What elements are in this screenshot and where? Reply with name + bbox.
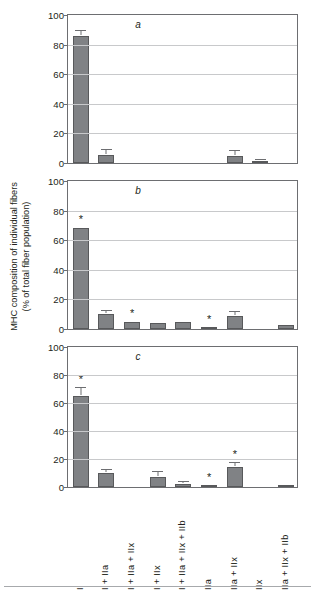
- x-axis-label-slot: IIa + IIx + IIb: [272, 490, 298, 590]
- bar: [73, 36, 89, 163]
- significance-marker: *: [207, 316, 211, 322]
- y-axis-tick-label: 60: [30, 235, 64, 246]
- y-axis-tick-mark: [64, 329, 68, 330]
- y-axis-tick-mark: [64, 270, 68, 271]
- bar: [98, 314, 114, 329]
- error-bar-cap: [75, 30, 86, 31]
- error-bar-cap: [152, 471, 163, 472]
- bar-slot: [222, 15, 248, 163]
- error-bar-cap: [101, 310, 112, 311]
- bar-slot: [171, 181, 197, 329]
- chart-panel-c: c *** 020406080100: [67, 346, 298, 488]
- error-bar-cap: [255, 159, 266, 160]
- error-bar-cap: [229, 150, 240, 151]
- bar-slot: [145, 347, 171, 487]
- gridline: [68, 270, 297, 271]
- y-axis-tick-mark: [64, 211, 68, 212]
- y-axis-tick-mark: [64, 403, 68, 404]
- y-axis-tick-label: 0: [30, 158, 64, 169]
- y-axis-tick-label: 80: [30, 39, 64, 50]
- bar-slot: *: [222, 347, 248, 487]
- y-axis-tick-label: 40: [30, 264, 64, 275]
- y-axis-tick-label: 60: [30, 69, 64, 80]
- y-axis-tick-mark: [64, 74, 68, 75]
- bar: [278, 485, 294, 487]
- bar: [227, 156, 243, 163]
- plot-area-c: c *** 020406080100: [67, 346, 298, 488]
- y-axis-tick-label: 0: [30, 324, 64, 335]
- bar: *: [73, 396, 89, 487]
- bar-slot: [248, 15, 274, 163]
- y-axis-tick-label: 100: [30, 342, 64, 353]
- gridline: [68, 240, 297, 241]
- bar-group-a: [68, 15, 297, 163]
- x-axis-label-slot: IIa: [195, 490, 221, 590]
- chart-panel-b: b *** 020406080100: [67, 180, 298, 330]
- y-axis-tick-mark: [64, 459, 68, 460]
- y-axis-tick-label: 100: [30, 176, 64, 187]
- bar-slot: [94, 15, 120, 163]
- x-axis-label-slot: IIa + IIx: [221, 490, 247, 590]
- error-bar: [234, 462, 235, 467]
- plot-area-a: a 020406080100: [67, 14, 298, 164]
- x-axis-label: IIx: [254, 490, 264, 590]
- bar: *: [73, 228, 89, 329]
- y-axis-tick-mark: [64, 240, 68, 241]
- x-axis-label: IIa + IIx: [229, 490, 239, 590]
- x-axis-label-slot: I + IIa + IIx: [118, 490, 144, 590]
- y-axis-title-line1: MHC composition of individual fibers: [9, 107, 21, 407]
- bar-slot: [94, 347, 120, 487]
- x-axis-label: I + IIx: [152, 490, 162, 590]
- bar: [98, 473, 114, 487]
- bar-slot: [119, 15, 145, 163]
- bar-slot: *: [196, 181, 222, 329]
- error-bar: [80, 387, 81, 395]
- y-axis-tick-label: 100: [30, 10, 64, 21]
- bar-slot: *: [196, 347, 222, 487]
- error-bar-cap: [229, 311, 240, 312]
- y-axis-tick-label: 20: [30, 294, 64, 305]
- y-axis-tick-mark: [64, 133, 68, 134]
- bar-slot: [196, 15, 222, 163]
- bar: [278, 325, 294, 329]
- y-axis-tick-mark: [64, 375, 68, 376]
- bar-group-b: ***: [68, 181, 297, 329]
- bar-slot: *: [68, 347, 94, 487]
- y-axis-title-line2: (% of total fiber population): [20, 107, 32, 407]
- bar-slot: [222, 181, 248, 329]
- y-axis-tick-mark: [64, 299, 68, 300]
- error-bar: [80, 30, 81, 35]
- x-axis-label-slot: I: [67, 490, 93, 590]
- error-bar-cap: [75, 387, 86, 388]
- y-axis-tick-label: 40: [30, 98, 64, 109]
- bar-slot: *: [68, 181, 94, 329]
- bar: [175, 322, 191, 329]
- gridline: [68, 211, 297, 212]
- y-axis-tick-label: 20: [30, 454, 64, 465]
- significance-marker: *: [233, 451, 237, 457]
- error-bar: [234, 150, 235, 154]
- x-axis-labels: II + IIaI + IIa + IIxI + IIxI + IIa + II…: [67, 490, 298, 590]
- x-axis-label: I + IIa + IIx + IIb: [177, 490, 187, 590]
- bar-slot: [248, 347, 274, 487]
- bar-group-c: ***: [68, 347, 297, 487]
- y-axis-tick-mark: [64, 181, 68, 182]
- gridline: [68, 74, 297, 75]
- bottom-divider: [4, 586, 311, 587]
- figure-container: MHC composition of individual fibers (% …: [0, 0, 315, 600]
- gridline: [68, 45, 297, 46]
- bar: [98, 155, 114, 163]
- y-axis-tick-mark: [64, 431, 68, 432]
- x-axis-label: I + IIa + IIx: [126, 490, 136, 590]
- x-axis-label: I + IIa: [100, 490, 110, 590]
- x-axis-label: I: [75, 490, 85, 590]
- significance-marker: *: [79, 376, 83, 382]
- gridline: [68, 375, 297, 376]
- gridline: [68, 431, 297, 432]
- bar: *: [201, 485, 217, 487]
- x-axis-label-slot: I + IIa + IIx + IIb: [170, 490, 196, 590]
- plot-area-b: b *** 020406080100: [67, 180, 298, 330]
- significance-marker: *: [79, 216, 83, 222]
- y-axis-tick-mark: [64, 487, 68, 488]
- error-bar: [260, 159, 261, 160]
